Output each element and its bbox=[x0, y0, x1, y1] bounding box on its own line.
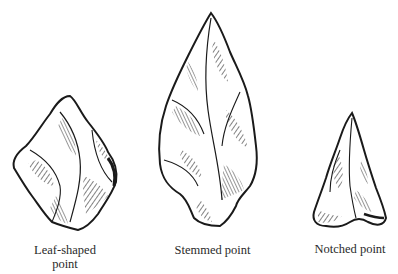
leaf-shaped-point-label: Leaf-shaped point bbox=[20, 243, 110, 271]
notched-label-line1: Notched point bbox=[302, 242, 398, 256]
leaf-label-line2: point bbox=[20, 257, 110, 271]
leaf-label-line1: Leaf-shaped bbox=[20, 243, 110, 257]
stone-points-illustration: Leaf-shaped point Stemmed point Notched … bbox=[0, 0, 398, 274]
stemmed-label-line1: Stemmed point bbox=[160, 243, 265, 257]
notched-point-label: Notched point bbox=[302, 242, 398, 256]
leaf-shaped-point-drawing bbox=[14, 96, 117, 230]
stemmed-point-drawing bbox=[159, 13, 257, 226]
stemmed-point-label: Stemmed point bbox=[160, 243, 265, 257]
notched-point-drawing bbox=[314, 113, 387, 227]
illustration-canvas bbox=[0, 0, 398, 274]
